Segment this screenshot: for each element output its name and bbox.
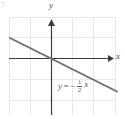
x-axis-label: x [116,52,120,61]
equation-fraction: 1 2 [77,79,83,95]
y-axis-label: y [49,1,53,10]
coordinate-plane-svg [0,0,125,119]
graph-figure: 7. y x y = − [0,0,125,119]
x-axis [9,55,114,62]
x-axis-arrowhead [108,55,114,62]
fraction-numerator: 1 [77,79,83,86]
equation-x-variable: x [84,80,88,89]
equation-annotation: y = − 1 2 x [58,79,88,95]
grid-lines [9,17,116,115]
equation-minus-sign: − [70,82,75,91]
y-axis-arrowhead [48,19,55,26]
equation-equals-sign: = [64,82,69,91]
fraction-denominator: 2 [77,87,83,94]
equation-y-variable: y [58,82,62,91]
